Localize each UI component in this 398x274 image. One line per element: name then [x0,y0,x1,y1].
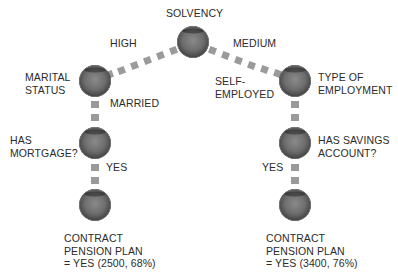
node-leaf-right [280,190,311,221]
edge-label-text: YES [106,161,127,174]
edge-label-text: MEDIUM [233,37,276,50]
marital-status-label: MARITAL STATUS [25,71,70,96]
leaf-right-label: CONTRACT PENSION PLAN = YES (3400, 76%) [266,232,358,270]
edge-label-married: MARRIED [110,97,159,110]
edge-label-medium: MEDIUM [233,37,276,50]
has-savings-account-label: HAS SAVINGS ACCOUNT? [318,134,390,159]
edge-label-self-employed: SELF- EMPLOYED [215,75,274,100]
leaf-left-label: CONTRACT PENSION PLAN = YES (2500, 68%) [64,232,156,270]
label-line: = YES (2500, 68%) [64,257,156,270]
node-marital-status [80,66,111,97]
label-line: CONTRACT [266,232,358,245]
label-line: HAS [10,134,78,147]
node-leaf-left [80,190,111,221]
label-line: PENSION PLAN [266,245,358,258]
edge-label-yes-left: YES [106,161,127,174]
label-line: SELF- [215,75,274,88]
edge-label-text: MARRIED [110,97,159,110]
label-line: PENSION PLAN [64,245,156,258]
label-line: EMPLOYMENT [318,84,393,97]
node-has-savings-account [280,128,311,159]
root-label-text: SOLVENCY [166,7,223,20]
label-line: MORTGAGE? [10,147,78,160]
label-line: CONTRACT [64,232,156,245]
label-line: ACCOUNT? [318,147,390,160]
label-line: HAS SAVINGS [318,134,390,147]
node-has-mortgage [80,128,111,159]
node-solvency [178,27,209,58]
has-mortgage-label: HAS MORTGAGE? [10,134,78,159]
label-line: TYPE OF [318,71,393,84]
edge-label-high: HIGH [110,37,137,50]
edge-label-text: YES [262,161,283,174]
edge-label-yes-right: YES [262,161,283,174]
edge-label-text: HIGH [110,37,137,50]
type-of-employment-label: TYPE OF EMPLOYMENT [318,71,393,96]
root-label: SOLVENCY [166,7,223,20]
node-type-of-employment [280,66,311,97]
label-line: EMPLOYED [215,88,274,101]
label-line: MARITAL [25,71,70,84]
label-line: = YES (3400, 76%) [266,257,358,270]
label-line: STATUS [25,84,70,97]
